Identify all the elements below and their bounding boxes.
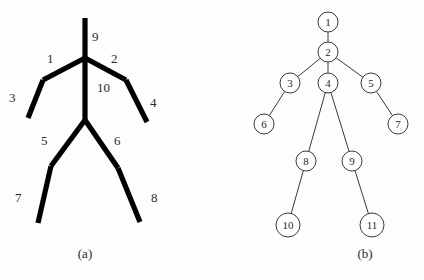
tree-node-2[interactable]: 2 bbox=[318, 42, 338, 62]
tree-node-7[interactable]: 7 bbox=[388, 114, 408, 134]
tree-node-label-8: 8 bbox=[303, 155, 309, 167]
limb-label-right-shank: 8 bbox=[151, 191, 158, 204]
bone-right-forearm bbox=[126, 80, 147, 122]
limb-label-right-forearm: 4 bbox=[150, 96, 157, 109]
tree-node-9[interactable]: 9 bbox=[342, 151, 362, 171]
limb-label-right-upper-arm: 2 bbox=[111, 52, 118, 65]
tree-node-8[interactable]: 8 bbox=[296, 151, 316, 171]
tree-node-label-5: 5 bbox=[368, 77, 374, 89]
limb-label-left-forearm: 3 bbox=[9, 91, 16, 104]
tree-node-6[interactable]: 6 bbox=[254, 114, 274, 134]
limb-label-left-upper-arm: 1 bbox=[47, 52, 54, 65]
tree-edge-8-10 bbox=[291, 171, 303, 214]
bone-left-shank bbox=[38, 166, 51, 223]
tree-node-label-7: 7 bbox=[395, 118, 401, 130]
panel-tree-graph: 1234567891011 (b) bbox=[212, 0, 424, 280]
tree-edge-4-9 bbox=[331, 93, 349, 152]
tree-edge-9-11 bbox=[355, 171, 368, 214]
limb-label-head-neck: 9 bbox=[92, 30, 99, 43]
caption-panel-b: (b) bbox=[345, 246, 385, 262]
tree-node-label-6: 6 bbox=[261, 118, 267, 130]
tree-node-10[interactable]: 10 bbox=[276, 213, 300, 237]
limb-label-left-shank: 7 bbox=[15, 191, 22, 204]
limb-label-torso: 10 bbox=[97, 81, 110, 94]
tree-edge-3-6 bbox=[269, 91, 284, 115]
tree-node-11[interactable]: 11 bbox=[360, 213, 384, 237]
figure-root: 12345678910 (a) 1234567891011 (b) bbox=[0, 0, 424, 280]
bone-left-thigh bbox=[51, 120, 85, 166]
bone-left-forearm bbox=[28, 80, 43, 118]
tree-node-label-10: 10 bbox=[283, 219, 295, 231]
panel-skeleton-figure: 12345678910 (a) bbox=[0, 0, 212, 280]
tree-node-1[interactable]: 1 bbox=[318, 12, 338, 32]
tree-diagram: 1234567891011 bbox=[212, 0, 424, 245]
tree-node-5[interactable]: 5 bbox=[361, 73, 381, 93]
tree-edge-5-7 bbox=[376, 91, 392, 115]
tree-node-label-2: 2 bbox=[325, 46, 331, 58]
tree-node-label-9: 9 bbox=[349, 155, 355, 167]
limb-label-left-thigh: 5 bbox=[41, 134, 48, 147]
caption-panel-a: (a) bbox=[65, 246, 105, 262]
tree-edge-2-5 bbox=[336, 58, 363, 77]
tree-edge-4-8 bbox=[309, 93, 326, 152]
tree-node-label-4: 4 bbox=[325, 77, 331, 89]
bone-right-upper-arm bbox=[85, 58, 126, 80]
skeleton-diagram bbox=[0, 0, 212, 240]
bone-right-shank bbox=[118, 168, 140, 222]
tree-node-4[interactable]: 4 bbox=[318, 73, 338, 93]
tree-node-label-1: 1 bbox=[325, 16, 331, 28]
tree-node-label-11: 11 bbox=[367, 219, 378, 231]
limb-label-right-thigh: 6 bbox=[114, 134, 121, 147]
tree-edge-2-3 bbox=[298, 58, 321, 76]
tree-node-label-3: 3 bbox=[287, 77, 293, 89]
tree-node-3[interactable]: 3 bbox=[280, 73, 300, 93]
